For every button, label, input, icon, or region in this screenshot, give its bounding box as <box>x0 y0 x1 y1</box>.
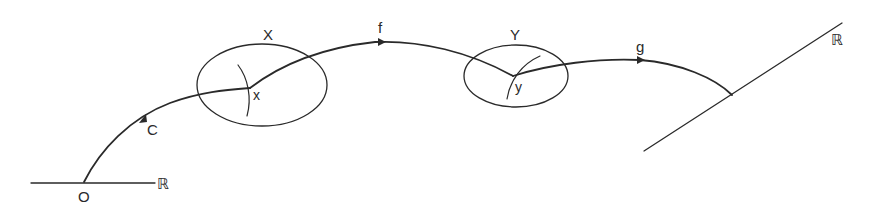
real-line-left-label: ℝ <box>157 175 169 192</box>
curve-c-label: C <box>147 121 158 138</box>
real-line-right-label: ℝ <box>831 31 843 48</box>
curve-f <box>250 42 513 88</box>
arrow-f-icon <box>378 38 386 46</box>
point-x-label: x <box>253 87 260 103</box>
set-y-label: Y <box>510 26 520 43</box>
real-line-right <box>644 23 842 151</box>
set-x-label: X <box>263 26 273 43</box>
cross-arc-x <box>238 65 249 116</box>
diagram-canvas: ℝ O C X x f Y y g ℝ <box>0 0 874 209</box>
map-f-label: f <box>378 19 383 36</box>
origin-label: O <box>78 188 90 205</box>
curve-c <box>84 88 250 182</box>
cross-arc-y <box>507 56 540 99</box>
map-g-label: g <box>636 38 644 55</box>
point-y-label: y <box>515 79 522 95</box>
arrow-g-icon <box>637 56 645 64</box>
curve-g <box>513 60 732 95</box>
